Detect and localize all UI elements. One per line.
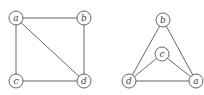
node-label: d <box>126 76 132 86</box>
triangle-graph-node-d: d <box>122 74 136 88</box>
square-graph-edge-a-d <box>16 18 84 81</box>
node-label: a <box>193 76 198 86</box>
triangle-graph-node-b: b <box>156 13 170 27</box>
node-label: b <box>81 13 87 23</box>
node-label: d <box>81 76 87 86</box>
square-graph-node-c: c <box>9 74 23 88</box>
node-label: b <box>160 15 166 25</box>
edges-layer <box>16 18 196 81</box>
triangle-graph-node-a: a <box>189 74 203 88</box>
square-graph-node-d: d <box>77 74 91 88</box>
square-graph-node-b: b <box>77 11 91 25</box>
node-label: c <box>13 76 18 86</box>
square-graph-node-a: a <box>9 11 23 25</box>
graph-diagram: abcdbcda <box>0 0 204 95</box>
node-label: c <box>159 49 164 59</box>
nodes-layer: abcdbcda <box>9 11 203 88</box>
triangle-graph-node-c: c <box>155 47 169 61</box>
node-label: a <box>13 13 18 23</box>
